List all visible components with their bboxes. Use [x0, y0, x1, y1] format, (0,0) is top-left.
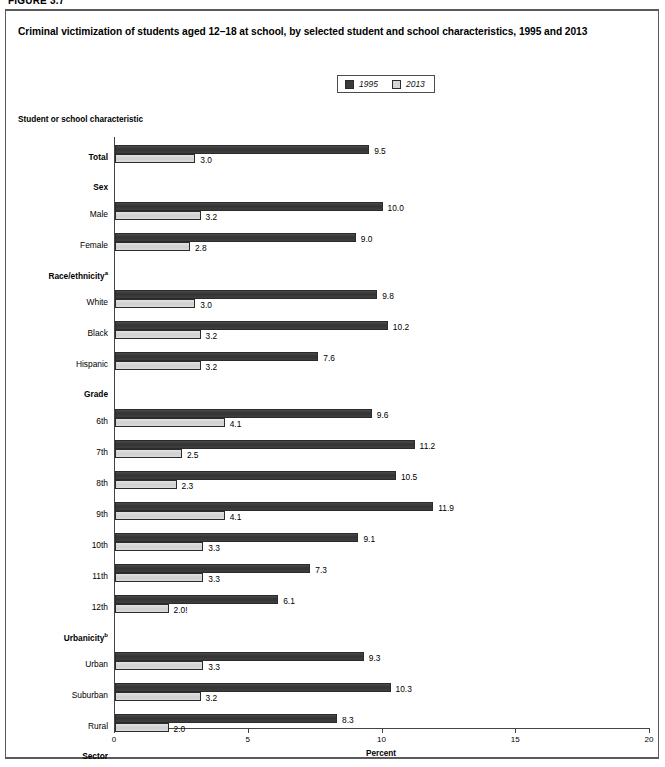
- x-axis-tick: [649, 728, 650, 733]
- bar-value-1995-rural: 8.3: [342, 715, 354, 725]
- bar-1995-female[interactable]: [115, 233, 356, 242]
- x-axis-title: Percent: [366, 749, 396, 758]
- bar-2013-urban[interactable]: [115, 661, 203, 670]
- bar-value-2013-rural: 2.0: [174, 724, 186, 734]
- bar-1995-hispanic[interactable]: [115, 352, 318, 361]
- bar-1995-10th[interactable]: [115, 533, 358, 542]
- bar-value-1995-total: 9.5: [374, 146, 386, 156]
- light-square-swatch-icon: [392, 80, 401, 89]
- bar-1995-6th[interactable]: [115, 409, 372, 418]
- figure-frame: Criminal victimization of students aged …: [5, 9, 659, 759]
- row-label-hispanic: Hispanic: [76, 359, 108, 369]
- bar-1995-urban[interactable]: [115, 652, 364, 661]
- x-axis-tick: [382, 728, 383, 733]
- x-axis-tick: [515, 728, 516, 733]
- bar-2013-total[interactable]: [115, 154, 195, 163]
- row-label-male: Male: [90, 209, 108, 219]
- row-label-female: Female: [80, 240, 108, 250]
- y-axis-heading: Student or school characteristic: [18, 115, 143, 124]
- row-label-7th: 7th: [96, 447, 108, 457]
- bar-value-2013-8th: 2.3: [182, 481, 194, 491]
- bar-2013-10th[interactable]: [115, 542, 203, 551]
- row-label-8th: 8th: [96, 478, 108, 488]
- bar-2013-12th[interactable]: [115, 604, 169, 613]
- bar-1995-white[interactable]: [115, 290, 377, 299]
- figure-number-label: FIGURE 3.7: [8, 0, 64, 6]
- y-axis-line: [114, 137, 115, 728]
- bar-2013-black[interactable]: [115, 330, 201, 339]
- row-label-11th: 11th: [92, 571, 108, 581]
- chart-legend: 1995 2013: [337, 75, 435, 93]
- bar-value-1995-male: 10.0: [388, 203, 404, 213]
- row-label-suburban: Suburban: [72, 690, 108, 700]
- x-axis-tick-label: 5: [246, 735, 250, 744]
- bar-2013-female[interactable]: [115, 242, 190, 251]
- bar-2013-male[interactable]: [115, 211, 201, 220]
- bar-2013-8th[interactable]: [115, 480, 177, 489]
- bar-value-1995-6th: 9.6: [377, 410, 389, 420]
- bar-2013-7th[interactable]: [115, 449, 182, 458]
- bar-1995-suburban[interactable]: [115, 683, 391, 692]
- legend-item-1995[interactable]: 1995: [345, 79, 378, 89]
- bar-value-1995-white: 9.8: [382, 291, 394, 301]
- x-axis-tick-label: 10: [377, 735, 386, 744]
- bar-value-2013-male: 3.2: [206, 212, 218, 222]
- bar-value-2013-black: 3.2: [206, 331, 218, 341]
- bar-1995-11th[interactable]: [115, 564, 310, 573]
- bar-1995-9th[interactable]: [115, 502, 433, 511]
- bar-value-2013-hispanic: 3.2: [206, 362, 218, 372]
- bar-1995-rural[interactable]: [115, 714, 337, 723]
- bar-value-2013-urban: 3.3: [208, 662, 220, 672]
- bar-value-2013-12th: 2.0!: [174, 605, 188, 615]
- group-heading-race-ethnicity: Race/ethnicitya: [48, 270, 108, 281]
- bar-value-1995-8th: 10.5: [401, 472, 417, 482]
- row-label-10th: 10th: [92, 540, 108, 550]
- bar-value-1995-suburban: 10.3: [396, 684, 412, 694]
- bar-2013-rural[interactable]: [115, 723, 169, 732]
- bar-value-1995-black: 10.2: [393, 322, 409, 332]
- row-label-6th: 6th: [96, 416, 108, 426]
- x-axis-tick-label: 20: [645, 735, 654, 744]
- bar-value-2013-10th: 3.3: [208, 543, 220, 553]
- row-label-rural: Rural: [88, 721, 108, 731]
- bar-2013-11th[interactable]: [115, 573, 203, 582]
- row-label-black: Black: [88, 328, 108, 338]
- bar-value-2013-11th: 3.3: [208, 574, 220, 584]
- row-label-urban: Urban: [85, 659, 108, 669]
- bar-value-1995-female: 9.0: [361, 234, 373, 244]
- page-title: Criminal victimization of students aged …: [18, 25, 648, 38]
- bar-value-1995-12th: 6.1: [283, 596, 295, 606]
- bar-2013-white[interactable]: [115, 299, 195, 308]
- row-label-12th: 12th: [92, 602, 108, 612]
- bar-1995-black[interactable]: [115, 321, 388, 330]
- row-label-total: Total: [89, 152, 108, 162]
- figure-page: FIGURE 3.7 Criminal victimization of stu…: [0, 0, 665, 767]
- bar-2013-hispanic[interactable]: [115, 361, 201, 370]
- bar-2013-suburban[interactable]: [115, 692, 201, 701]
- bar-1995-8th[interactable]: [115, 471, 396, 480]
- bar-value-2013-total: 3.0: [200, 155, 212, 165]
- bar-1995-12th[interactable]: [115, 595, 278, 604]
- bar-value-2013-7th: 2.5: [187, 450, 199, 460]
- legend-item-2013[interactable]: 2013: [392, 79, 425, 89]
- plot-area: 05101520 Percent Total9.53.0SexMale10.03…: [114, 137, 653, 728]
- bar-value-2013-female: 2.8: [195, 243, 207, 253]
- row-label-9th: 9th: [96, 509, 108, 519]
- group-heading-sex: Sex: [93, 182, 108, 192]
- bar-value-1995-urban: 9.3: [369, 653, 381, 663]
- row-label-white: White: [87, 297, 108, 307]
- bar-2013-6th[interactable]: [115, 418, 225, 427]
- bar-value-2013-suburban: 3.2: [206, 693, 218, 703]
- bar-value-1995-7th: 11.2: [420, 441, 436, 451]
- bar-1995-7th[interactable]: [115, 440, 415, 449]
- x-axis-tick-label: 0: [112, 735, 116, 744]
- bar-value-1995-10th: 9.1: [363, 534, 375, 544]
- bar-1995-male[interactable]: [115, 202, 383, 211]
- bar-1995-total[interactable]: [115, 145, 369, 154]
- bar-value-2013-9th: 4.1: [230, 512, 242, 522]
- group-heading-grade: Grade: [84, 389, 108, 399]
- bar-2013-9th[interactable]: [115, 511, 225, 520]
- group-heading-sector: Sector: [82, 751, 108, 761]
- dark-square-swatch-icon: [345, 80, 354, 89]
- bar-value-1995-9th: 11.9: [438, 503, 454, 513]
